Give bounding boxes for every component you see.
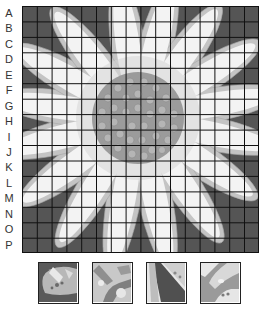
- row-label-i: I: [0, 130, 18, 145]
- row-label-m: M: [0, 191, 18, 206]
- row-label-l: L: [0, 176, 18, 191]
- row-label-e: E: [0, 68, 18, 83]
- row-label-d: D: [0, 52, 18, 67]
- thumbnail-2: [92, 262, 133, 304]
- row-label-o: O: [0, 222, 18, 237]
- row-label-c: C: [0, 37, 18, 52]
- row-label-k: K: [0, 160, 18, 175]
- row-label-j: J: [0, 145, 18, 160]
- daisy-illustration: [22, 6, 259, 253]
- daisy-grid-image: [22, 6, 259, 253]
- detail-thumbnails: [0, 262, 263, 305]
- row-label-g: G: [0, 99, 18, 114]
- thumbnail-4: [200, 262, 241, 304]
- row-label-a: A: [0, 6, 18, 21]
- row-label-p: P: [0, 238, 18, 253]
- row-labels: A B C D E F G H I J K L M N O P: [0, 6, 18, 253]
- row-label-f: F: [0, 83, 18, 98]
- row-label-h: H: [0, 114, 18, 129]
- thumbnail-1: [38, 262, 79, 304]
- row-label-b: B: [0, 21, 18, 36]
- thumbnail-3: [146, 262, 187, 304]
- row-label-n: N: [0, 207, 18, 222]
